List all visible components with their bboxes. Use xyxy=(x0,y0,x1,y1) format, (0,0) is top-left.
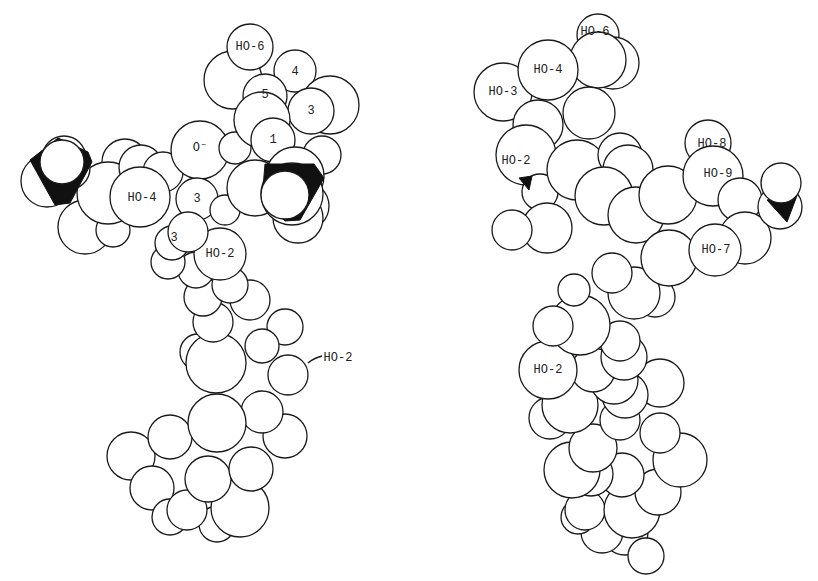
molecular-models-figure: HO-6 4 5 3 1 O⁻ HO-4 3 3 HO-2 HO-2 HO-6 … xyxy=(0,0,818,581)
atom-label: HO-8 xyxy=(698,138,727,150)
atom-label: HO-3 xyxy=(489,86,518,98)
atom-label: HO-9 xyxy=(704,168,733,180)
atom-label: HO-2 xyxy=(502,155,531,167)
atom-label: 3 xyxy=(193,193,200,205)
atom-label: HO-7 xyxy=(702,244,731,256)
right-molecule xyxy=(474,14,802,574)
atom-label: 3 xyxy=(170,232,177,244)
space-filling-models xyxy=(0,0,818,581)
atom-label: HO-2 xyxy=(534,364,563,376)
atom-label: 4 xyxy=(291,66,298,78)
atom-label: 1 xyxy=(269,134,276,146)
atom-label: O⁻ xyxy=(193,142,207,154)
atom-label: HO-4 xyxy=(534,64,563,76)
atom-label: HO-4 xyxy=(128,192,157,204)
atom-label: 5 xyxy=(261,89,268,101)
atom-label: 3 xyxy=(307,105,314,117)
left-molecule xyxy=(21,24,359,542)
atom-label: HO-2 xyxy=(206,248,235,260)
atom-label: HO-6 xyxy=(236,41,265,53)
atom-label: HO-2 xyxy=(324,352,353,364)
atom-label: HO-6 xyxy=(581,26,610,38)
